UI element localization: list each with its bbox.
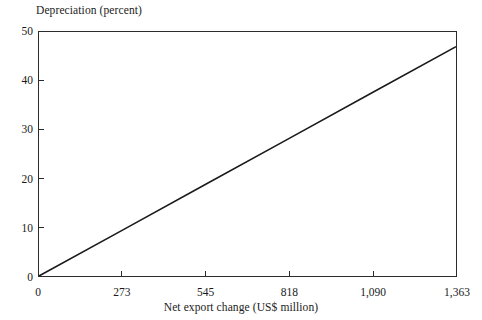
y-tick-label-wrap: 30 bbox=[0, 123, 33, 135]
plot-area bbox=[38, 31, 457, 277]
y-tick-mark bbox=[38, 227, 44, 228]
y-tick-label: 20 bbox=[1, 173, 33, 185]
y-tick-mark bbox=[38, 129, 44, 130]
x-tick-mark bbox=[205, 271, 206, 277]
x-tick-label-wrap: 818 bbox=[249, 282, 329, 300]
y-tick-mark bbox=[38, 80, 44, 81]
y-tick-label-wrap: 50 bbox=[0, 25, 33, 37]
y-tick-label-wrap: 20 bbox=[0, 173, 33, 185]
chart-figure: Depreciation (percent) 01020304050 02735… bbox=[0, 0, 482, 320]
x-tick-label: 0 bbox=[35, 286, 41, 298]
x-tick-label: 1,090 bbox=[360, 286, 386, 298]
x-tick-mark bbox=[121, 271, 122, 277]
x-tick-mark bbox=[373, 271, 374, 277]
x-tick-label-wrap: 1,090 bbox=[333, 282, 413, 300]
y-tick-label: 40 bbox=[1, 74, 33, 86]
plot-svg bbox=[39, 32, 456, 276]
x-tick-label-wrap: 545 bbox=[166, 282, 246, 300]
y-tick-label: 30 bbox=[1, 123, 33, 135]
x-tick-label: 273 bbox=[113, 286, 130, 298]
y-tick-label-wrap: 10 bbox=[0, 222, 33, 234]
x-tick-label: 545 bbox=[197, 286, 214, 298]
x-axis-title: Net export change (US$ million) bbox=[0, 300, 482, 314]
y-tick-label: 50 bbox=[1, 25, 33, 37]
y-tick-mark bbox=[38, 178, 44, 179]
x-tick-label-wrap: 273 bbox=[82, 282, 162, 300]
x-tick-label: 818 bbox=[281, 286, 298, 298]
x-tick-label-wrap: 1,363 bbox=[417, 282, 482, 300]
y-tick-label-wrap: 40 bbox=[0, 74, 33, 86]
x-tick-label: 1,363 bbox=[444, 286, 470, 298]
x-tick-mark bbox=[289, 271, 290, 277]
x-tick-label-wrap: 0 bbox=[0, 282, 78, 300]
y-tick-label: 10 bbox=[1, 222, 33, 234]
y-axis-title: Depreciation (percent) bbox=[36, 3, 142, 17]
data-line-depreciation bbox=[39, 47, 456, 276]
